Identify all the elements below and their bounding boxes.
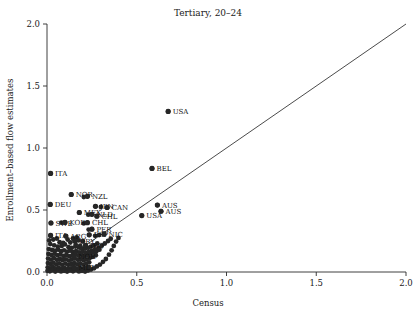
data-point-label: CAN <box>112 204 129 212</box>
data-point-labeled <box>48 171 53 176</box>
data-point <box>109 248 114 253</box>
y-tick-label: 0.0 <box>26 267 40 277</box>
x-axis-ticks: 0.00.51.01.52.0 <box>40 272 413 288</box>
x-tick-label: 0.5 <box>130 278 144 288</box>
data-point-labeled <box>149 166 154 171</box>
data-point-label: MLT <box>78 264 94 272</box>
chart-canvas: Tertiary, 20–24 USABELITANORNZLDEUAUSJPN… <box>0 0 416 317</box>
data-point-labeled <box>166 109 171 114</box>
data-point-labeled <box>48 220 53 225</box>
data-point-label: NIC <box>109 231 123 239</box>
data-point-labeled <box>83 243 88 248</box>
page-title: Tertiary, 20–24 <box>174 8 242 18</box>
data-point-labeled <box>72 238 77 243</box>
scatter-plot-figure: Tertiary, 20–24 USABELITANORNZLDEUAUSJPN… <box>0 0 416 317</box>
data-point-label: USA <box>146 212 163 220</box>
data-point-labeled <box>139 213 144 218</box>
data-point-label: AUS <box>164 208 181 216</box>
data-point-labeled <box>89 212 94 217</box>
x-axis-label: Census <box>192 298 223 308</box>
data-point-labeled <box>48 233 53 238</box>
y-tick-label: 0.5 <box>26 205 40 215</box>
data-point-labeled <box>77 210 82 215</box>
data-point-label: USA <box>173 108 190 116</box>
x-tick-label: 0.0 <box>40 278 54 288</box>
data-point-labeled <box>63 233 68 238</box>
data-point <box>103 257 108 262</box>
data-point-labeled <box>69 192 74 197</box>
data-point-labeled <box>105 205 110 210</box>
x-tick-label: 2.0 <box>399 278 413 288</box>
data-point-labeled <box>94 214 99 219</box>
data-point-labeled <box>71 265 76 270</box>
data-point-label: NZL <box>92 193 108 201</box>
data-point-label: IRQ <box>90 242 104 250</box>
plot-title-group: Tertiary, 20–24 <box>174 8 242 18</box>
y-axis-label: Enrollment–based flow estimates <box>5 79 15 222</box>
data-point-label: KOR <box>69 219 86 227</box>
x-tick-label: 1.0 <box>220 278 234 288</box>
x-tick-label: 1.5 <box>309 278 323 288</box>
data-point <box>68 240 73 245</box>
data-point-labeled <box>155 202 160 207</box>
data-point-label: ITA <box>55 170 68 178</box>
data-point-label: DEU <box>55 201 72 209</box>
data-points-group <box>45 109 170 274</box>
data-point-labeled <box>85 194 90 199</box>
data-point <box>107 252 112 257</box>
y-tick-label: 2.0 <box>26 19 40 29</box>
y-axis-ticks: 0.00.51.01.52.0 <box>26 19 47 277</box>
data-point-labeled <box>101 232 106 237</box>
data-point-label: BEL <box>157 165 172 173</box>
data-point-labeled <box>48 202 53 207</box>
data-point-labeled <box>85 220 90 225</box>
data-point-label: NOR <box>78 253 96 261</box>
data-point-labeled <box>71 254 76 259</box>
y-tick-label: 1.5 <box>26 81 40 91</box>
data-point-labeled <box>62 220 67 225</box>
data-point <box>111 244 116 249</box>
y-tick-label: 1.0 <box>26 143 40 153</box>
